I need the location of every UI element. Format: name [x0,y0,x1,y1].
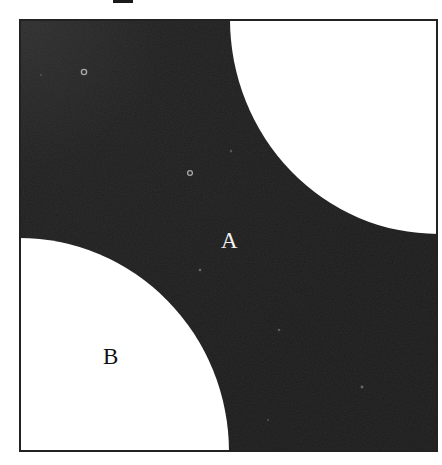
heading-letter-fragment [113,0,133,3]
region-b-label: B [103,345,118,368]
diagram-frame: A B [19,19,438,452]
region-a-label: A [221,229,238,252]
